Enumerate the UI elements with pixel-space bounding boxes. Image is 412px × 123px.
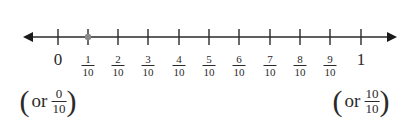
alternate-label-right: ( or 1010 ) <box>333 86 390 116</box>
marked-point <box>85 34 91 40</box>
label-one: 1 <box>357 50 366 70</box>
label-3-10: 310 <box>142 49 155 78</box>
label-7-10: 710 <box>264 49 277 78</box>
label-1-10: 110 <box>82 49 95 78</box>
label-9-10: 910 <box>324 49 337 78</box>
label-8-10: 810 <box>294 49 307 78</box>
label-4-10: 410 <box>173 49 186 78</box>
left-arrow-icon <box>23 32 33 42</box>
alternate-label-left: ( or 010 ) <box>20 86 77 116</box>
label-6-10: 610 <box>233 49 246 78</box>
label-5-10: 510 <box>203 49 216 78</box>
right-arrow-icon <box>387 32 397 42</box>
label-zero: 0 <box>54 50 63 70</box>
label-2-10: 210 <box>112 49 125 78</box>
